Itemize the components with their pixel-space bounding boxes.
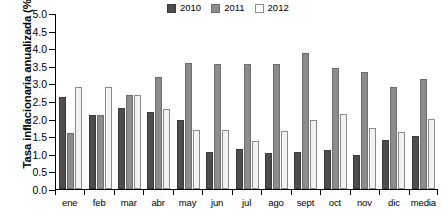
bar-2010-jun[interactable] [206, 152, 213, 189]
y-tick-label: 3.5 [13, 60, 47, 74]
x-axis-label-jul: jul [232, 197, 261, 208]
bar-2010-abr[interactable] [147, 112, 154, 189]
x-tick-jul [232, 190, 261, 196]
y-tick-mark [49, 102, 55, 103]
bar-2011-may[interactable] [185, 63, 192, 189]
y-tick-label: 3.0 [13, 77, 47, 91]
bar-2011-abr[interactable] [155, 77, 162, 189]
bar-2010-sept[interactable] [294, 152, 301, 189]
y-tick-label: 0.5 [13, 165, 47, 179]
bar-2011-media[interactable] [420, 79, 427, 189]
bar-2012-dic[interactable] [398, 132, 405, 189]
bar-2011-ene[interactable] [67, 133, 74, 189]
bar-group-ago [262, 14, 291, 189]
bar-2010-jul[interactable] [236, 149, 243, 189]
bar-2010-nov[interactable] [353, 155, 360, 189]
x-tick-nov [350, 190, 379, 196]
bar-group-jun [203, 14, 232, 189]
bar-2011-nov[interactable] [361, 72, 368, 189]
x-tick-ago [261, 190, 290, 196]
bar-2012-may[interactable] [193, 130, 200, 189]
bar-2011-feb[interactable] [97, 115, 104, 189]
x-axis-label-sept: sept [291, 197, 320, 208]
bar-2012-media[interactable] [428, 119, 435, 189]
bar-group-abr [144, 14, 173, 189]
x-tick-jun [202, 190, 231, 196]
bar-2010-oct[interactable] [324, 150, 331, 189]
x-axis-label-ene: ene [55, 197, 84, 208]
bar-2011-jul[interactable] [244, 64, 251, 189]
x-axis-label-feb: feb [84, 197, 113, 208]
y-tick-label: 1.0 [13, 148, 47, 162]
x-tick-feb [84, 190, 113, 196]
bar-2010-may[interactable] [177, 120, 184, 189]
bar-2012-abr[interactable] [163, 109, 170, 189]
legend-swatch-icon-2012 [255, 4, 264, 13]
bar-2011-jun[interactable] [214, 64, 221, 189]
y-tick-label: 0.0 [13, 183, 47, 197]
bar-2010-mar[interactable] [118, 108, 125, 189]
bar-2012-jun[interactable] [222, 130, 229, 189]
bar-group-feb [85, 14, 114, 189]
bar-group-mar [115, 14, 144, 189]
x-tick-sept [291, 190, 320, 196]
bar-2010-feb[interactable] [89, 115, 96, 189]
y-tick-mark [49, 137, 55, 138]
x-axis-label-oct: oct [320, 197, 349, 208]
y-tick-mark [49, 172, 55, 173]
bar-group-media [409, 14, 438, 189]
bar-2012-jul[interactable] [252, 141, 259, 189]
bar-group-jul [232, 14, 261, 189]
x-axis-label-jun: jun [202, 197, 231, 208]
chart-legend: 201020112012 [167, 3, 289, 13]
x-axis-label-ago: ago [261, 197, 290, 208]
bar-2012-ene[interactable] [75, 87, 82, 189]
y-tick-label: 1.5 [13, 130, 47, 144]
x-axis-label-media: media [409, 197, 438, 208]
x-tick-abr [143, 190, 172, 196]
bar-2012-oct[interactable] [340, 114, 347, 189]
x-axis-label-nov: nov [350, 197, 379, 208]
bar-2010-ago[interactable] [265, 153, 272, 189]
legend-item-2011[interactable]: 2011 [211, 3, 244, 13]
x-tick-media [409, 190, 438, 196]
legend-label-2012: 2012 [268, 3, 289, 13]
x-axis-label-may: may [173, 197, 202, 208]
bar-2011-oct[interactable] [332, 68, 339, 189]
bar-2012-mar[interactable] [134, 95, 141, 189]
y-tick-mark [49, 32, 55, 33]
y-tick-label: 2.0 [13, 113, 47, 127]
bar-group-may [174, 14, 203, 189]
x-tick-oct [320, 190, 349, 196]
bar-group-oct [321, 14, 350, 189]
bar-group-sept [291, 14, 320, 189]
bar-2011-sept[interactable] [302, 53, 309, 189]
y-tick-mark [49, 155, 55, 156]
x-tick-dic [379, 190, 408, 196]
bar-2012-feb[interactable] [105, 87, 112, 189]
plot-area: 5.04.54.03.53.02.52.01.51.00.50.0 [55, 14, 438, 190]
bar-group-dic [379, 14, 408, 189]
legend-label-2010: 2010 [180, 3, 201, 13]
bar-2011-dic[interactable] [390, 87, 397, 189]
legend-item-2012[interactable]: 2012 [255, 3, 289, 13]
y-tick-mark [49, 14, 55, 15]
x-tick-may [173, 190, 202, 196]
y-tick-mark [49, 120, 55, 121]
bar-2012-sept[interactable] [310, 120, 317, 189]
legend-item-2010[interactable]: 2010 [167, 3, 201, 13]
bar-group-ene [56, 14, 85, 189]
legend-swatch-icon-2010 [167, 4, 176, 13]
bar-2011-ago[interactable] [273, 64, 280, 189]
bar-2011-mar[interactable] [126, 95, 133, 189]
inflation-bar-chart: Tasa inflacionaria anualizada (%) 201020… [0, 0, 442, 215]
y-tick-label: 4.0 [13, 42, 47, 56]
bar-group-nov [350, 14, 379, 189]
bar-2010-dic[interactable] [382, 140, 389, 189]
bar-2012-nov[interactable] [369, 128, 376, 189]
x-axis-label-abr: abr [143, 197, 172, 208]
y-tick-mark [49, 67, 55, 68]
bar-2010-ene[interactable] [59, 97, 66, 189]
bar-2010-media[interactable] [412, 136, 419, 189]
bar-2012-ago[interactable] [281, 131, 288, 189]
